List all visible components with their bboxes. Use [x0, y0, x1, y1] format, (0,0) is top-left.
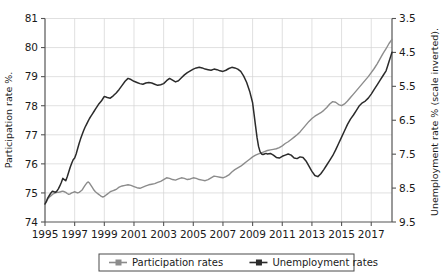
y-tick-label-right: 6.5: [399, 114, 416, 126]
x-tick-label: 1997: [61, 228, 88, 240]
x-tick-label: 2017: [358, 228, 385, 240]
y-tick-label-left: 77: [25, 129, 38, 141]
y-tick-label-right: 7.5: [399, 148, 416, 160]
y-tick-label-right: 4.5: [399, 46, 416, 58]
dual-axis-line-chart: 7475767778798081 9.58.57.56.55.54.53.5 1…: [0, 0, 447, 279]
x-tick-label: 2001: [121, 228, 148, 240]
y-tick-label-left: 81: [25, 12, 38, 24]
y-tick-label-right: 5.5: [399, 80, 416, 92]
x-tick-label: 2007: [210, 228, 237, 240]
legend-marker-square: [116, 260, 122, 266]
y-tick-label-right: 8.5: [399, 182, 416, 194]
y-tick-label-left: 79: [25, 70, 38, 82]
y-tick-label-left: 76: [25, 158, 39, 170]
y-tick-label-left: 74: [25, 216, 39, 228]
y-tick-label-left: 80: [25, 41, 38, 53]
legend-label: Unemployment rates: [272, 257, 378, 268]
x-tick-label: 2013: [299, 228, 326, 240]
x-tick-label: 2009: [239, 228, 266, 240]
legend-marker-square: [256, 260, 262, 266]
x-tick-label: 1999: [91, 228, 118, 240]
x-tick-label: 2015: [328, 228, 355, 240]
y-tick-label-right: 3.5: [399, 12, 416, 24]
x-tick-label: 2003: [150, 228, 177, 240]
x-tick-label: 2011: [269, 228, 296, 240]
y-tick-label-right: 9.5: [399, 216, 416, 228]
y-tick-label-left: 78: [25, 100, 38, 112]
y-axis-right-title: Unemployment rate % (scale inverted).: [429, 28, 440, 216]
legend-label: Participation rates: [132, 257, 223, 268]
y-tick-label-left: 75: [25, 187, 38, 199]
chart-legend: Participation ratesUnemployment rates: [99, 254, 378, 271]
x-tick-label: 1995: [32, 228, 59, 240]
y-axis-left-title: Participation rate %.: [3, 72, 14, 169]
chart-container: 7475767778798081 9.58.57.56.55.54.53.5 1…: [0, 0, 447, 279]
x-tick-label: 2005: [180, 228, 207, 240]
